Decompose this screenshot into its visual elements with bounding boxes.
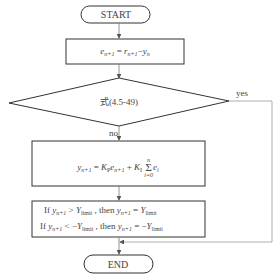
end-label: END	[108, 260, 129, 270]
error-equation: en+1 = rn+1−yn	[100, 47, 149, 57]
start-label: START	[101, 10, 131, 20]
yes-label: yes	[236, 89, 248, 98]
control-equation: yn+1 = KPen+1 + KI n Σ i=0 ei	[77, 158, 158, 179]
summation: n Σ i=0	[144, 158, 153, 179]
limit-line-2: If yn+1 < −Ylimit , then yn+1 = −Ylimit	[40, 222, 163, 232]
limit-line-1: If yn+1 > Ylimit , then yn+1 = Ylimit	[44, 206, 157, 216]
no-label: no	[109, 129, 118, 138]
decision-label: 式(4.5-49)	[100, 98, 138, 107]
flowchart-canvas	[0, 0, 277, 279]
